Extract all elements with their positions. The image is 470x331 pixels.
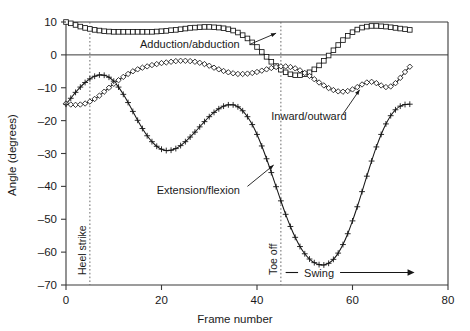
axis-ticks (61, 22, 448, 290)
y-tick-label: –70 (38, 279, 57, 291)
marker-adduction-abduction (388, 25, 393, 30)
marker-inward-outward (269, 65, 274, 70)
y-tick-label: 0 (51, 49, 57, 61)
marker-extension-flexion (383, 121, 389, 127)
marker-extension-flexion (264, 156, 270, 162)
marker-adduction-abduction (212, 25, 217, 30)
marker-extension-flexion (292, 234, 298, 240)
marker-extension-flexion (140, 126, 146, 132)
marker-inward-outward (78, 102, 83, 107)
marker-adduction-abduction (298, 73, 303, 78)
marker-adduction-abduction (236, 30, 241, 35)
marker-extension-flexion (407, 101, 413, 107)
marker-adduction-abduction (73, 23, 78, 28)
marker-inward-outward (92, 96, 97, 101)
marker-extension-flexion (273, 184, 279, 190)
marker-adduction-abduction (164, 29, 169, 34)
marker-adduction-abduction (336, 43, 341, 48)
marker-adduction-abduction (107, 29, 112, 34)
series-line-extension-flexion (66, 75, 410, 265)
marker-adduction-abduction (269, 59, 274, 64)
marker-adduction-abduction (202, 25, 207, 30)
marker-inward-outward (230, 71, 235, 76)
marker-adduction-abduction (221, 26, 226, 31)
marker-adduction-abduction (322, 58, 327, 63)
y-tick-label: –30 (38, 148, 57, 160)
marker-adduction-abduction (131, 30, 136, 35)
extension-flexion-label: Extension/flexion (157, 184, 240, 196)
marker-adduction-abduction (317, 63, 322, 68)
marker-adduction-abduction (245, 36, 250, 41)
marker-adduction-abduction (226, 27, 231, 32)
y-axis-title: Angle (degrees) (6, 114, 18, 196)
phase-span-group: Swing (286, 267, 415, 279)
marker-extension-flexion (92, 73, 98, 79)
marker-adduction-abduction (116, 30, 121, 35)
marker-extension-flexion (268, 170, 274, 176)
marker-inward-outward (264, 67, 269, 72)
marker-adduction-abduction (145, 30, 150, 35)
axis-tick-labels: 100–10–20–30–40–50–60–70020406080 (38, 16, 455, 306)
marker-adduction-abduction (240, 33, 245, 38)
swing-label: Swing (304, 267, 334, 279)
marker-inward-outward (245, 71, 250, 76)
marker-inward-outward (197, 60, 202, 65)
marker-extension-flexion (221, 103, 227, 109)
data-series-group (66, 22, 410, 265)
marker-adduction-abduction (88, 27, 93, 32)
x-axis-title: Frame number (197, 313, 273, 325)
marker-adduction-abduction (326, 53, 331, 58)
marker-adduction-abduction (374, 24, 379, 29)
marker-adduction-abduction (288, 72, 293, 77)
marker-adduction-abduction (312, 67, 317, 72)
marker-extension-flexion (378, 132, 384, 138)
swing-phase-arrowhead (408, 269, 415, 276)
marker-extension-flexion (259, 143, 265, 149)
marker-inward-outward (283, 64, 288, 69)
marker-adduction-abduction (126, 30, 131, 35)
gait-angle-chart: 100–10–20–30–40–50–60–70020406080 Adduct… (0, 0, 470, 331)
marker-adduction-abduction (178, 27, 183, 32)
marker-adduction-abduction (102, 29, 107, 34)
marker-adduction-abduction (188, 26, 193, 31)
y-tick-label: –50 (38, 213, 57, 225)
marker-inward-outward (340, 89, 345, 94)
marker-inward-outward (144, 64, 149, 69)
marker-adduction-abduction (393, 26, 398, 31)
marker-inward-outward (168, 59, 173, 64)
marker-adduction-abduction (255, 45, 260, 50)
y-tick-label: 10 (44, 16, 57, 28)
toe-off-label: Toe off (267, 244, 279, 275)
marker-adduction-abduction (140, 30, 145, 35)
data-point-markers (63, 20, 413, 268)
x-tick-label: 60 (346, 294, 359, 306)
marker-adduction-abduction (78, 24, 83, 29)
marker-adduction-abduction (369, 24, 374, 29)
adduction-abduction-label-arrowhead (271, 33, 277, 37)
marker-inward-outward (164, 60, 169, 65)
marker-extension-flexion (159, 146, 165, 152)
y-tick-label: –60 (38, 246, 57, 258)
marker-adduction-abduction (207, 25, 212, 30)
marker-inward-outward (369, 79, 374, 84)
marker-extension-flexion (297, 244, 303, 250)
marker-adduction-abduction (217, 25, 222, 30)
marker-extension-flexion (130, 109, 136, 115)
marker-inward-outward (259, 68, 264, 73)
marker-adduction-abduction (355, 27, 360, 32)
marker-adduction-abduction (121, 30, 126, 35)
adduction-abduction-label: Adduction/abduction (140, 38, 240, 50)
x-tick-label: 20 (155, 294, 168, 306)
inward-outward-label-arrowhead (355, 90, 360, 95)
marker-adduction-abduction (159, 29, 164, 34)
marker-extension-flexion (364, 173, 370, 179)
marker-adduction-abduction (360, 25, 365, 30)
x-tick-label: 0 (63, 294, 69, 306)
marker-extension-flexion (125, 100, 131, 106)
inward-outward-label: Inward/outward (271, 110, 346, 122)
marker-adduction-abduction (259, 50, 264, 55)
marker-adduction-abduction (345, 34, 350, 39)
marker-extension-flexion (283, 211, 289, 217)
marker-adduction-abduction (231, 28, 236, 33)
marker-inward-outward (125, 71, 130, 76)
